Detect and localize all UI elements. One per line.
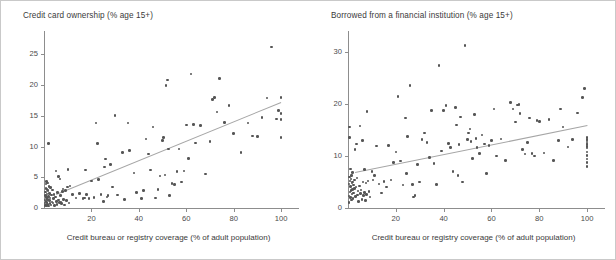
plot-area-right: 010203020406080100Credit bureau or regis… xyxy=(348,39,599,208)
y-tick-label: 0 xyxy=(316,203,342,212)
scatter-point xyxy=(395,151,398,154)
scatter-point xyxy=(406,135,409,138)
scatter-point xyxy=(251,135,254,138)
scatter-point xyxy=(256,135,259,138)
scatter-point xyxy=(435,183,438,186)
scatter-point xyxy=(469,128,472,131)
scatter-point xyxy=(95,122,98,125)
scatter-point xyxy=(524,153,527,156)
scatter-point xyxy=(519,112,522,115)
scatter-point xyxy=(586,151,589,154)
x-axis-line xyxy=(348,208,605,209)
scatter-point xyxy=(348,201,351,204)
scatter-point xyxy=(586,161,589,164)
scatter-point xyxy=(161,139,164,142)
scatter-point xyxy=(375,145,378,148)
scatter-point xyxy=(442,109,445,112)
scatter-point xyxy=(411,183,414,186)
scatter-point xyxy=(176,170,179,173)
scatter-point xyxy=(552,159,555,162)
figure-container: Credit card ownership (% age 15+) 051015… xyxy=(0,0,616,260)
y-tick-mark xyxy=(345,156,348,157)
x-tick-mark xyxy=(234,209,235,212)
scatter-point xyxy=(109,163,112,166)
scatter-point xyxy=(133,172,136,175)
scatter-point xyxy=(473,113,476,116)
scatter-point xyxy=(167,148,170,151)
scatter-point xyxy=(168,194,171,197)
scatter-point xyxy=(114,114,117,117)
scatter-point xyxy=(356,177,359,180)
scatter-point xyxy=(367,180,370,183)
scatter-point xyxy=(467,132,470,135)
y-tick-mark xyxy=(41,85,44,86)
scatter-point xyxy=(142,189,145,192)
scatter-point xyxy=(458,143,461,146)
scatter-point xyxy=(216,111,219,114)
scatter-point xyxy=(414,194,417,197)
x-tick-mark xyxy=(539,209,540,212)
x-tick-label: 40 xyxy=(125,214,153,223)
chart-title-left: Credit card ownership (% age 15+) xyxy=(23,11,153,20)
scatter-point xyxy=(46,182,49,185)
scatter-point xyxy=(149,169,152,172)
scatter-point xyxy=(157,188,160,191)
scatter-point xyxy=(185,124,188,127)
y-tick-label: 30 xyxy=(316,47,342,56)
y-tick-mark xyxy=(41,208,44,209)
scatter-point xyxy=(586,158,589,161)
scatter-point xyxy=(349,168,352,171)
y-tick-label: 0 xyxy=(12,203,38,212)
y-tick-label: 20 xyxy=(316,99,342,108)
scatter-point xyxy=(270,46,273,49)
scatter-point xyxy=(127,122,130,125)
scatter-point xyxy=(433,162,436,165)
scatter-point xyxy=(586,145,589,148)
scatter-point xyxy=(240,151,243,154)
scatter-point xyxy=(380,192,383,195)
scatter-point xyxy=(475,137,478,140)
scatter-point xyxy=(213,96,216,99)
x-tick-label: 20 xyxy=(77,214,105,223)
scatter-point xyxy=(59,194,62,197)
x-tick-mark xyxy=(444,209,445,212)
scatter-point xyxy=(360,189,363,192)
x-axis-title: Credit bureau or registry coverage (% of… xyxy=(22,233,315,242)
x-tick-label: 100 xyxy=(267,214,295,223)
scatter-point xyxy=(209,140,212,143)
scatter-point xyxy=(266,97,269,100)
scatter-point xyxy=(165,84,168,87)
x-tick-label: 100 xyxy=(573,214,601,223)
scatter-point xyxy=(178,148,181,151)
y-tick-label: 15 xyxy=(12,111,38,120)
scatter-point xyxy=(586,154,589,157)
scatter-point xyxy=(352,192,355,195)
scatter-point xyxy=(261,116,264,119)
scatter-point xyxy=(247,122,250,125)
scatter-point xyxy=(47,142,50,145)
scatter-point xyxy=(164,174,167,177)
scatter-point xyxy=(500,138,503,141)
y-tick-label: 25 xyxy=(12,49,38,58)
scatter-point xyxy=(121,151,124,154)
scatter-point xyxy=(430,109,433,112)
scatter-point xyxy=(358,185,361,188)
scatter-point xyxy=(68,202,71,205)
scatter-point xyxy=(409,84,412,87)
scatter-point xyxy=(583,87,586,90)
scatter-point xyxy=(218,77,221,80)
scatter-point xyxy=(478,152,481,155)
scatter-point xyxy=(378,183,381,186)
x-tick-mark xyxy=(139,209,140,212)
scatter-point xyxy=(483,143,486,146)
x-axis-line xyxy=(44,208,299,209)
scatter-point xyxy=(84,169,87,172)
scatter-point xyxy=(88,197,91,200)
x-tick-label: 40 xyxy=(430,214,458,223)
scatter-point xyxy=(459,116,462,119)
scatter-point xyxy=(562,126,565,129)
scatter-point xyxy=(355,143,358,146)
scatter-point xyxy=(509,101,512,104)
scatter-point xyxy=(351,171,354,174)
scatter-point xyxy=(159,175,162,178)
